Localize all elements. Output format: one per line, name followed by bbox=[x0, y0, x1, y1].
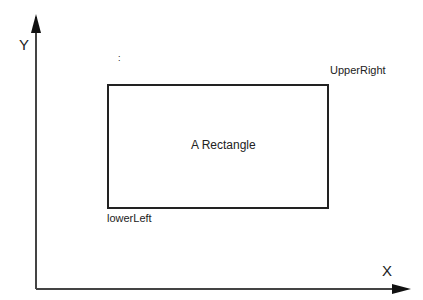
diagram-canvas: Y X UpperRight lowerLeft A Rectangle : bbox=[0, 0, 423, 300]
x-axis bbox=[36, 284, 411, 294]
x-axis-label: X bbox=[382, 262, 392, 279]
rectangle-label: A Rectangle bbox=[191, 138, 256, 152]
upper-right-label: UpperRight bbox=[330, 64, 386, 76]
y-axis-arrow-icon bbox=[31, 14, 41, 33]
y-axis-label: Y bbox=[19, 36, 29, 53]
lower-left-label: lowerLeft bbox=[107, 212, 152, 224]
x-axis-arrow-icon bbox=[392, 284, 411, 294]
y-axis bbox=[31, 14, 41, 289]
stray-mark: : bbox=[118, 53, 121, 63]
